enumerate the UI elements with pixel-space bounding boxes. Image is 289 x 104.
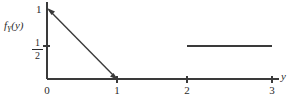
y-axis-function-label: fY(y) [4, 20, 23, 34]
x-tick-label-2: 2 [181, 85, 193, 96]
x-tick-label-3: 3 [266, 85, 278, 96]
y-axis-function-argument: (y) [11, 19, 23, 31]
y-tick-label-half-denominator: 2 [32, 51, 43, 62]
x-axis-name-label: y [281, 71, 286, 82]
density-plot-figure: fY(y) 1 1 2 0 1 2 3 y [0, 0, 289, 104]
x-tick-label-1: 1 [111, 85, 123, 96]
y-tick-label-half-numerator: 1 [32, 38, 43, 49]
y-tick-label-half: 1 2 [32, 38, 43, 61]
x-tick-label-0: 0 [41, 85, 53, 96]
y-tick-label-one: 1 [36, 4, 42, 15]
triangular-density-segment [49, 10, 116, 78]
